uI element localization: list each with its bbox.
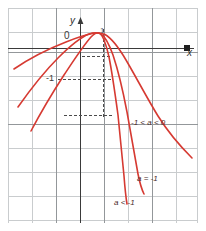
annotation-a-equals-1: a = -1 [137, 175, 158, 183]
y-axis-label: y [70, 16, 75, 26]
x-axis-label: x [187, 48, 192, 58]
graph-plot-area [8, 8, 198, 223]
figure-root: y x 0 1 -1 -1 < a < 0 a = -1 a < -1 [0, 0, 206, 231]
y-tick-minus-one-label: -1 [46, 74, 54, 83]
y-axis-arrow [78, 17, 84, 24]
origin-label: 0 [64, 31, 70, 41]
x-tick-one-label: 1 [100, 27, 104, 35]
graph-svg [8, 8, 198, 223]
annotation-a-less: a < -1 [114, 199, 135, 207]
annotation-a-between: -1 < a < 0 [131, 119, 165, 127]
curve-group [14, 33, 192, 204]
curve-a-less-than-minus1 [31, 33, 127, 204]
